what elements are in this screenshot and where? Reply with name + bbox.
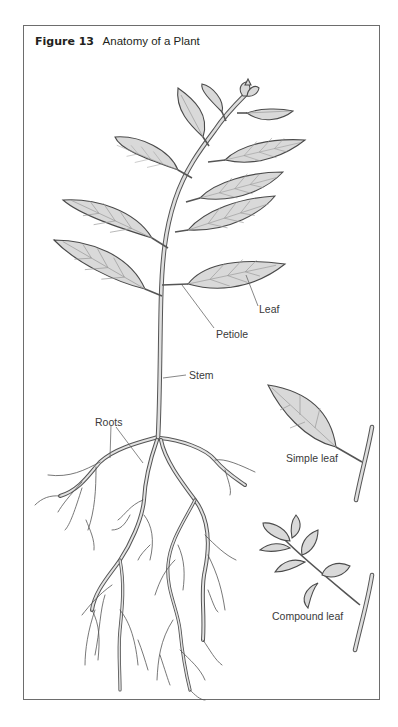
leaf — [113, 137, 192, 179]
flower-bud — [240, 79, 259, 96]
simple-leaf-diagram — [268, 385, 372, 500]
root-system — [35, 437, 255, 700]
leaf — [237, 109, 293, 120]
label-leaders — [110, 275, 258, 463]
leaflet — [263, 523, 290, 541]
leaf — [175, 192, 275, 239]
leaflet — [304, 583, 318, 608]
plant-illustration: Leaf Petiole Stem Roots Simple leaf Comp… — [0, 0, 398, 727]
leaflet — [322, 563, 350, 577]
leaflet — [260, 544, 290, 552]
leaflet — [302, 530, 318, 555]
main-roots — [60, 437, 245, 690]
leaf-labeled — [162, 253, 285, 295]
label-compound-leaf: Compound leaf — [272, 610, 343, 622]
leaflet — [275, 560, 305, 572]
leaf — [63, 190, 168, 249]
leaflet — [291, 515, 300, 538]
leaf — [54, 232, 162, 301]
label-simple-leaf: Simple leaf — [286, 452, 338, 464]
label-petiole: Petiole — [216, 328, 248, 340]
label-leaf: Leaf — [259, 303, 280, 315]
compound-leaf-diagram — [260, 515, 372, 650]
label-stem: Stem — [189, 369, 214, 381]
label-roots: Roots — [95, 416, 122, 428]
leaf — [202, 84, 226, 121]
leaf — [178, 88, 209, 146]
leaf — [208, 132, 305, 169]
